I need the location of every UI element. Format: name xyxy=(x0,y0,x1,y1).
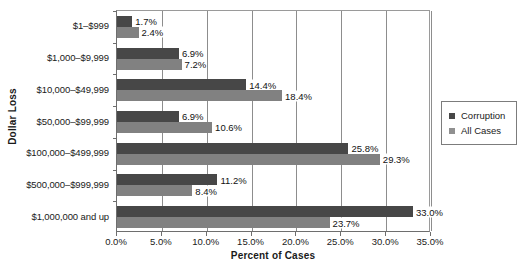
bar-all-cases xyxy=(117,27,139,38)
bar-group: 6.9%10.6% xyxy=(117,106,429,138)
bar-corruption xyxy=(117,79,246,90)
bar-value-label: 8.4% xyxy=(192,185,217,196)
bar-row: 25.8% xyxy=(117,143,429,154)
bar-row: 10.6% xyxy=(117,122,429,133)
x-axis-tick-label: 5.0% xyxy=(150,236,172,247)
bar-all-cases xyxy=(117,154,380,165)
bar-all-cases xyxy=(117,217,330,228)
legend-swatch-icon xyxy=(449,113,455,119)
bar-group: 25.8%29.3% xyxy=(117,138,429,170)
bar-group: 1.7%2.4% xyxy=(117,11,429,43)
bar-value-label: 10.6% xyxy=(212,122,242,133)
bar-row: 11.2% xyxy=(117,174,429,185)
bar-chart: Dollar Loss $1–$999$1,000–$9,999$10,000–… xyxy=(0,0,523,266)
category-label: $50,000–$99,999 xyxy=(22,105,114,137)
chart-legend: CorruptionAll Cases xyxy=(441,101,517,145)
bar-row: 33.0% xyxy=(117,206,429,217)
x-axis-tick-label: 15.0% xyxy=(237,236,264,247)
bar-row: 8.4% xyxy=(117,185,429,196)
x-axis-tick-label: 35.0% xyxy=(417,236,444,247)
x-axis-tick-label: 0.0% xyxy=(105,236,127,247)
bar-value-label: 18.4% xyxy=(282,90,312,101)
category-label: $500,000–$999,999 xyxy=(22,169,114,201)
y-axis-title: Dollar Loss xyxy=(0,0,24,232)
bar-all-cases xyxy=(117,185,192,196)
category-label: $1–$999 xyxy=(22,10,114,42)
bar-row: 6.9% xyxy=(117,48,429,59)
bar-group: 33.0%23.7% xyxy=(117,201,429,233)
bar-corruption xyxy=(117,48,179,59)
bar-corruption xyxy=(117,143,348,154)
bar-value-label: 25.8% xyxy=(348,143,378,154)
category-axis-labels: $1–$999$1,000–$9,999$10,000–$49,999$50,0… xyxy=(22,10,114,232)
bar-row: 29.3% xyxy=(117,154,429,165)
bar-corruption xyxy=(117,174,217,185)
plot-area: 1.7%2.4%6.9%7.2%14.4%18.4%6.9%10.6%25.8%… xyxy=(116,10,430,232)
bar-value-label: 1.7% xyxy=(132,16,157,27)
bar-corruption xyxy=(117,16,132,27)
x-axis-tick-label: 10.0% xyxy=(192,236,219,247)
bar-row: 6.9% xyxy=(117,111,429,122)
x-axis-tick-label: 30.0% xyxy=(372,236,399,247)
category-label: $100,000–$499,999 xyxy=(22,137,114,169)
bar-value-label: 14.4% xyxy=(246,79,276,90)
category-label: $10,000–$49,999 xyxy=(22,73,114,105)
bar-value-label: 33.0% xyxy=(413,206,443,217)
bar-group: 11.2%8.4% xyxy=(117,170,429,202)
category-label: $1,000–$9,999 xyxy=(22,42,114,74)
bar-group: 6.9%7.2% xyxy=(117,43,429,75)
legend-item: All Cases xyxy=(449,123,510,138)
x-axis-labels: 0.0%5.0%10.0%15.0%20.0%25.0%30.0%35.0% xyxy=(0,236,523,250)
legend-item: Corruption xyxy=(449,108,510,123)
legend-label: Corruption xyxy=(461,110,505,121)
legend-swatch-icon xyxy=(449,128,455,134)
bar-all-cases xyxy=(117,122,212,133)
bar-all-cases xyxy=(117,59,182,70)
bar-value-label: 29.3% xyxy=(380,154,410,165)
bar-value-label: 6.9% xyxy=(179,111,204,122)
gridline xyxy=(431,11,432,231)
bar-row: 1.7% xyxy=(117,16,429,27)
bar-corruption xyxy=(117,111,179,122)
category-label: $1,000,000 and up xyxy=(22,200,114,232)
bar-value-label: 2.4% xyxy=(139,27,164,38)
bar-value-label: 11.2% xyxy=(217,174,246,185)
bar-all-cases xyxy=(117,90,282,101)
x-axis-title: Percent of Cases xyxy=(116,250,430,261)
bar-value-label: 6.9% xyxy=(179,48,204,59)
y-axis-title-label: Dollar Loss xyxy=(7,88,18,145)
bar-row: 23.7% xyxy=(117,217,429,228)
x-axis-tick-label: 25.0% xyxy=(327,236,354,247)
bar-value-label: 7.2% xyxy=(182,59,207,70)
bar-row: 2.4% xyxy=(117,27,429,38)
bar-corruption xyxy=(117,206,413,217)
legend-label: All Cases xyxy=(461,125,501,136)
x-axis-tick-label: 20.0% xyxy=(282,236,309,247)
bar-value-label: 23.7% xyxy=(330,217,360,228)
bar-row: 18.4% xyxy=(117,90,429,101)
bar-group: 14.4%18.4% xyxy=(117,74,429,106)
bar-row: 7.2% xyxy=(117,59,429,70)
bar-row: 14.4% xyxy=(117,79,429,90)
